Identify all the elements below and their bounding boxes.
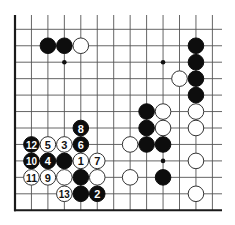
white-stone-disc bbox=[122, 137, 138, 153]
white-stone-disc bbox=[188, 120, 204, 136]
black-stone bbox=[73, 186, 89, 202]
white-stone bbox=[122, 137, 138, 153]
star-point bbox=[161, 60, 166, 65]
black-stone-disc bbox=[188, 87, 204, 103]
white-stone bbox=[188, 120, 204, 136]
move-number: 5 bbox=[45, 139, 51, 151]
white-stone-disc bbox=[155, 120, 171, 136]
move-number: 6 bbox=[78, 139, 84, 151]
black-stone bbox=[188, 38, 204, 54]
black-stone bbox=[57, 38, 73, 54]
white-stone: 13 bbox=[57, 186, 73, 202]
move-number: 8 bbox=[78, 123, 84, 135]
move-number: 9 bbox=[45, 172, 51, 184]
white-stone bbox=[155, 120, 171, 136]
black-stone-disc bbox=[57, 153, 73, 169]
move-number: 13 bbox=[59, 188, 70, 200]
black-stone bbox=[139, 120, 155, 136]
white-stone: 7 bbox=[89, 153, 105, 169]
go-board-diagram: 81253610417119132 bbox=[0, 0, 235, 225]
black-stone bbox=[57, 153, 73, 169]
white-stone bbox=[172, 71, 188, 87]
black-stone-disc bbox=[40, 38, 56, 54]
black-stone-disc bbox=[188, 38, 204, 54]
black-stone: 8 bbox=[73, 120, 89, 136]
white-stone-disc bbox=[89, 170, 105, 186]
white-stone bbox=[73, 38, 89, 54]
black-stone bbox=[155, 137, 171, 153]
white-stone bbox=[122, 170, 138, 186]
white-stone: 1 bbox=[73, 153, 89, 169]
white-stone bbox=[188, 104, 204, 120]
white-stone bbox=[188, 186, 204, 202]
black-stone-disc bbox=[188, 54, 204, 70]
black-stone bbox=[188, 71, 204, 87]
move-number: 7 bbox=[94, 155, 100, 167]
black-stone-disc bbox=[57, 38, 73, 54]
move-number: 3 bbox=[61, 139, 67, 151]
black-stone bbox=[188, 54, 204, 70]
move-number: 4 bbox=[45, 155, 52, 167]
white-stone bbox=[188, 153, 204, 169]
black-stone: 2 bbox=[89, 186, 105, 202]
black-stone-disc bbox=[139, 137, 155, 153]
black-stone bbox=[40, 38, 56, 54]
black-stone: 10 bbox=[24, 153, 40, 169]
white-stone: 11 bbox=[24, 170, 40, 186]
star-point bbox=[161, 159, 166, 164]
move-number: 12 bbox=[26, 139, 37, 151]
black-stone bbox=[188, 87, 204, 103]
white-stone: 3 bbox=[57, 137, 73, 153]
black-stone bbox=[139, 137, 155, 153]
white-stone-disc bbox=[172, 71, 188, 87]
black-stone bbox=[73, 170, 89, 186]
black-stone-disc bbox=[155, 137, 171, 153]
white-stone-disc bbox=[73, 38, 89, 54]
black-stone-disc bbox=[73, 170, 89, 186]
black-stone-disc bbox=[155, 170, 171, 186]
black-stone: 6 bbox=[73, 137, 89, 153]
black-stone bbox=[139, 104, 155, 120]
move-number: 11 bbox=[26, 172, 37, 184]
black-stone-disc bbox=[139, 120, 155, 136]
move-number: 2 bbox=[94, 188, 100, 200]
black-stone: 12 bbox=[24, 137, 40, 153]
white-stone-disc bbox=[155, 104, 171, 120]
white-stone-disc bbox=[188, 104, 204, 120]
black-stone: 4 bbox=[40, 153, 56, 169]
white-stone bbox=[155, 104, 171, 120]
move-number: 1 bbox=[78, 155, 84, 167]
move-number: 10 bbox=[26, 155, 37, 167]
white-stone-disc bbox=[188, 186, 204, 202]
white-stone-disc bbox=[188, 153, 204, 169]
black-stone-disc bbox=[139, 104, 155, 120]
white-stone bbox=[57, 170, 73, 186]
star-point bbox=[62, 60, 67, 65]
white-stone-disc bbox=[57, 170, 73, 186]
white-stone-disc bbox=[122, 170, 138, 186]
white-stone bbox=[89, 170, 105, 186]
white-stone: 5 bbox=[40, 137, 56, 153]
black-stone bbox=[155, 170, 171, 186]
white-stone: 9 bbox=[40, 170, 56, 186]
black-stone-disc bbox=[73, 186, 89, 202]
black-stone-disc bbox=[188, 71, 204, 87]
